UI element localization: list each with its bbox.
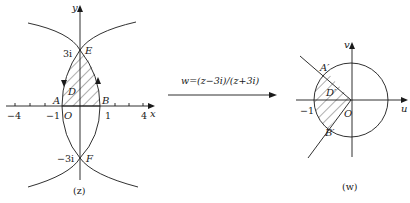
imag-label-minus3i: −3i <box>57 153 74 164</box>
origin-label-w: O <box>344 108 352 119</box>
w-plane: v u O −1 A′ B′ D′ (w) <box>296 39 408 192</box>
x-axis-label: x <box>150 108 156 119</box>
region-d-prime-label: D′ <box>325 87 337 98</box>
point-f-label: F <box>85 153 94 164</box>
z-plane-label: (z) <box>73 185 85 196</box>
origin-label-z: O <box>64 110 72 121</box>
tick-label-minus4: −4 <box>7 110 21 121</box>
mapping-arrow: w=(z−3i)/(z+3i) <box>168 75 277 98</box>
tick-label-plus4: 4 <box>141 110 147 121</box>
point-a-label: A <box>52 95 60 106</box>
conformal-map-diagram: y x O −4 −1 1 4 3i −3i E F A B D (z) w=(… <box>0 0 410 203</box>
y-axis-arrow-icon <box>77 5 83 12</box>
w-plane-label: (w) <box>342 181 358 192</box>
tick-label-minus1-w: −1 <box>300 105 314 116</box>
v-axis-arrow-icon <box>349 42 355 49</box>
point-a-prime-label: A′ <box>319 62 330 73</box>
mapping-formula: w=(z−3i)/(z+3i) <box>181 75 260 86</box>
tick-label-minus1: −1 <box>46 110 60 121</box>
z-plane: y x O −4 −1 1 4 3i −3i E F A B D (z) <box>6 2 156 196</box>
tick-label-plus1: 1 <box>105 110 111 121</box>
v-axis-label: v <box>344 39 350 50</box>
point-b-prime-label: B′ <box>324 127 335 138</box>
u-axis-label: u <box>401 103 407 114</box>
point-e-label: E <box>84 45 93 56</box>
point-b-label: B <box>101 95 109 106</box>
imag-label-3i: 3i <box>63 48 72 59</box>
region-d-label: D <box>67 86 76 97</box>
mapping-arrow-head-icon <box>269 92 277 98</box>
y-axis-label: y <box>71 2 78 13</box>
